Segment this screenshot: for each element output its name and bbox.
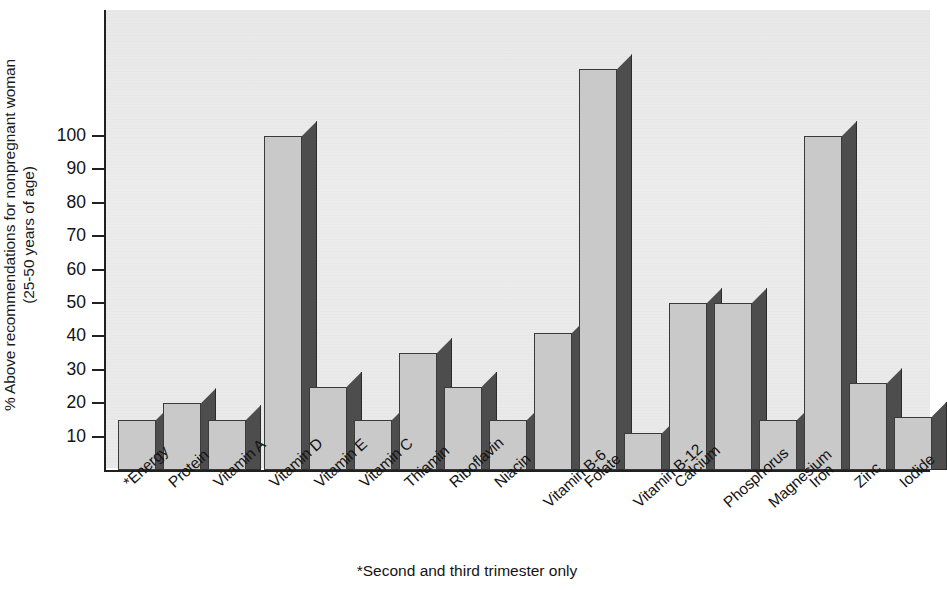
bar: [624, 433, 662, 470]
y-axis-tick: [92, 168, 104, 170]
y-axis-tick: [92, 302, 104, 304]
x-axis-category-labels: *EnergyProteinVitamin AVitamin DVitamin …: [0, 472, 934, 562]
y-axis-title-line-2: (25-50 years of age): [19, 0, 38, 470]
bar-front-face: [264, 136, 302, 470]
bar-front-face: [714, 303, 752, 470]
bar-front-face: [534, 333, 572, 470]
y-axis-tick: [92, 369, 104, 371]
y-axis-tick-label: 30: [40, 359, 86, 380]
y-axis-tick: [92, 269, 104, 271]
bar-front-face: [624, 433, 662, 470]
bar-front-face: [579, 69, 617, 470]
y-axis-tick: [92, 436, 104, 438]
bar: [579, 69, 617, 470]
y-axis-tick: [92, 135, 104, 137]
footnote: *Second and third trimester only: [0, 562, 934, 580]
y-axis-tick-label: 70: [40, 225, 86, 246]
y-axis-tick-label: 20: [40, 392, 86, 413]
bar: [804, 136, 842, 470]
bar-front-face: [849, 383, 887, 470]
y-axis-tick-label: 60: [40, 259, 86, 280]
y-axis-tick-label: 100: [40, 125, 86, 146]
y-axis-tick: [92, 202, 104, 204]
bar: [264, 136, 302, 470]
bar-front-face: [804, 136, 842, 470]
y-axis-tick: [92, 335, 104, 337]
y-axis-tick-label: 10: [40, 426, 86, 447]
bars-group: [106, 10, 930, 470]
y-axis-title: % Above recommendations for nonpregnant …: [0, 0, 38, 470]
bar: [849, 383, 887, 470]
y-axis-tick-label: 90: [40, 158, 86, 179]
y-axis-title-line-1: % Above recommendations for nonpregnant …: [0, 0, 19, 470]
bar-side-face: [617, 54, 632, 470]
y-axis-tick-label: 50: [40, 292, 86, 313]
bar: [714, 303, 752, 470]
y-axis-tick-label: 40: [40, 325, 86, 346]
y-axis-tick-label: 80: [40, 192, 86, 213]
y-axis-tick: [92, 235, 104, 237]
y-axis-tick: [92, 402, 104, 404]
bar: [534, 333, 572, 470]
